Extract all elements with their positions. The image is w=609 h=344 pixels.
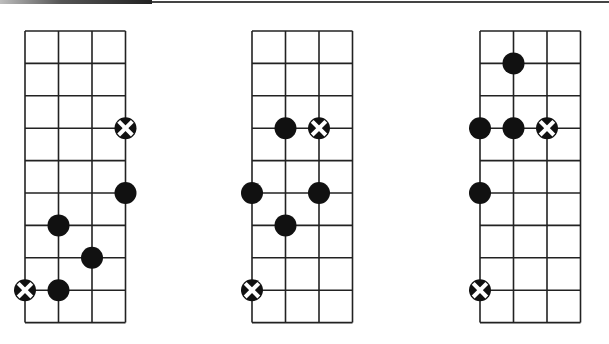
note-dot-icon [308,182,330,204]
root-x-circle-icon [14,279,36,301]
root-x-circle-icon [241,279,263,301]
note-dot-icon [115,182,137,204]
fretboard-grid [11,17,140,337]
root-x-circle-icon [536,117,558,139]
fretboard-grid [466,17,595,337]
root-x-circle-icon [469,279,491,301]
root-x-circle-icon [115,117,137,139]
fretboard-diagram-3 [466,17,595,337]
note-dot-icon [469,117,491,139]
note-dot-icon [275,117,297,139]
note-dot-icon [81,247,103,269]
note-dot-icon [503,117,525,139]
fretboard-diagram-2 [238,17,367,337]
header-rule [152,1,609,3]
header-rule-dark [0,0,152,4]
note-dot-icon [48,279,70,301]
note-dot-icon [469,182,491,204]
fretboard-diagram-1 [11,17,140,337]
note-dot-icon [503,52,525,74]
root-x-circle-icon [308,117,330,139]
note-dot-icon [241,182,263,204]
note-dot-icon [48,214,70,236]
fretboard-grid [238,17,367,337]
note-dot-icon [275,214,297,236]
